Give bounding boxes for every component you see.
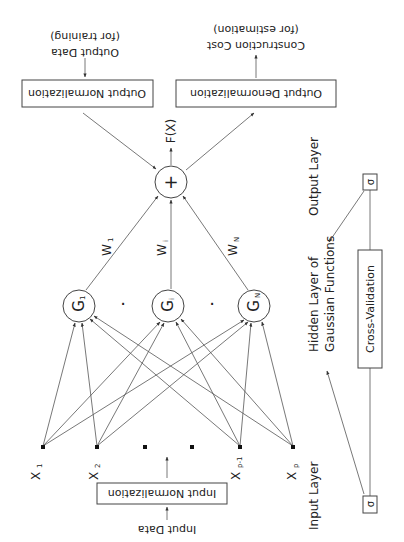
svg-text:N: N [254,293,262,298]
output-sigma-arrow [329,191,364,242]
hidden-layer-label: Hidden Layer of Gaussian Functions [307,236,337,352]
svg-text:Output Denormalization: Output Denormalization [190,87,322,100]
input-label-x2: X 2 [87,464,102,481]
svg-text:Cross-Validation: Cross-Validation [364,265,377,353]
svg-text:1: 1 [107,238,115,242]
svg-text:X: X [87,472,101,480]
ellipsis-dot: · [209,293,215,314]
input-nodes [41,445,295,449]
weight-line-1 [86,196,158,290]
grnn-diagram: Output Data (for training) Construction … [0,0,404,542]
weight-label-n: W N [226,237,241,256]
svg-text:p: p [292,463,300,468]
input-label-xp-1: X p-1 [229,457,244,481]
svg-text:G: G [245,300,263,312]
output-data-label: Output Data (for training) [50,30,120,59]
svg-text:Construction Cost: Construction Cost [206,39,305,52]
svg-text:X: X [285,472,299,480]
input-hidden-connections [43,316,293,446]
svg-text:G: G [159,300,177,312]
weight-label-i: W i [155,240,170,256]
svg-text:i: i [162,240,170,242]
input-label-x1: X 1 [29,464,44,481]
svg-text:W: W [155,244,169,256]
svg-text:σ: σ [365,178,376,185]
svg-text:i: i [168,298,176,300]
svg-text:(for training): (for training) [50,30,120,43]
input-sigma-arrow [327,371,364,494]
sigma-box-output: σ [363,174,377,190]
svg-text:σ: σ [365,500,376,507]
input-normalization-box: Input Normalization [97,483,227,504]
ellipsis-dot: · [120,293,126,314]
normalization-to-sum-arrow [83,113,156,169]
svg-text:Gaussian Functions: Gaussian Functions [323,236,337,352]
output-normalization-box: Output Normalization [22,80,153,107]
input-label-xp: X p [285,463,300,480]
weight-label-1: W 1 [100,238,115,256]
output-denormalization-box: Output Denormalization [176,80,336,107]
output-layer-label: Output Layer [307,137,321,216]
summation-node: + [155,166,187,198]
svg-text:G: G [70,300,88,312]
cross-validation-box: Cross-Validation [358,250,382,368]
svg-text:(for estimation): (for estimation) [213,23,299,36]
estimation-label: Construction Cost (for estimation) [206,23,305,52]
input-layer-label: Input Layer [307,462,321,530]
svg-text:Output Normalization: Output Normalization [28,87,146,100]
svg-text:Input Normalization: Input Normalization [108,487,216,500]
gaussian-node-1: G 1 [63,290,95,322]
sigma-box-input: σ [363,496,377,513]
sum-to-denormalization-arrow [186,113,254,170]
svg-text:1: 1 [36,464,44,468]
gaussian-node-i: G i [152,290,184,322]
svg-text:N: N [233,237,241,242]
svg-text:p-1: p-1 [236,457,244,468]
gaussian-node-n: G N [238,290,270,322]
input-data-label: Input Data [138,523,196,536]
weight-line-n [183,196,248,290]
svg-text:X: X [229,472,243,480]
svg-text:W: W [100,244,114,256]
output-function-label: F(X) [164,119,178,144]
svg-text:1: 1 [79,296,87,300]
svg-text:Hidden Layer of: Hidden Layer of [307,256,321,352]
svg-text:W: W [226,244,240,256]
svg-text:X: X [29,472,43,480]
svg-text:Output Data: Output Data [51,46,119,59]
plus-icon: + [163,171,178,192]
svg-text:2: 2 [94,464,102,468]
